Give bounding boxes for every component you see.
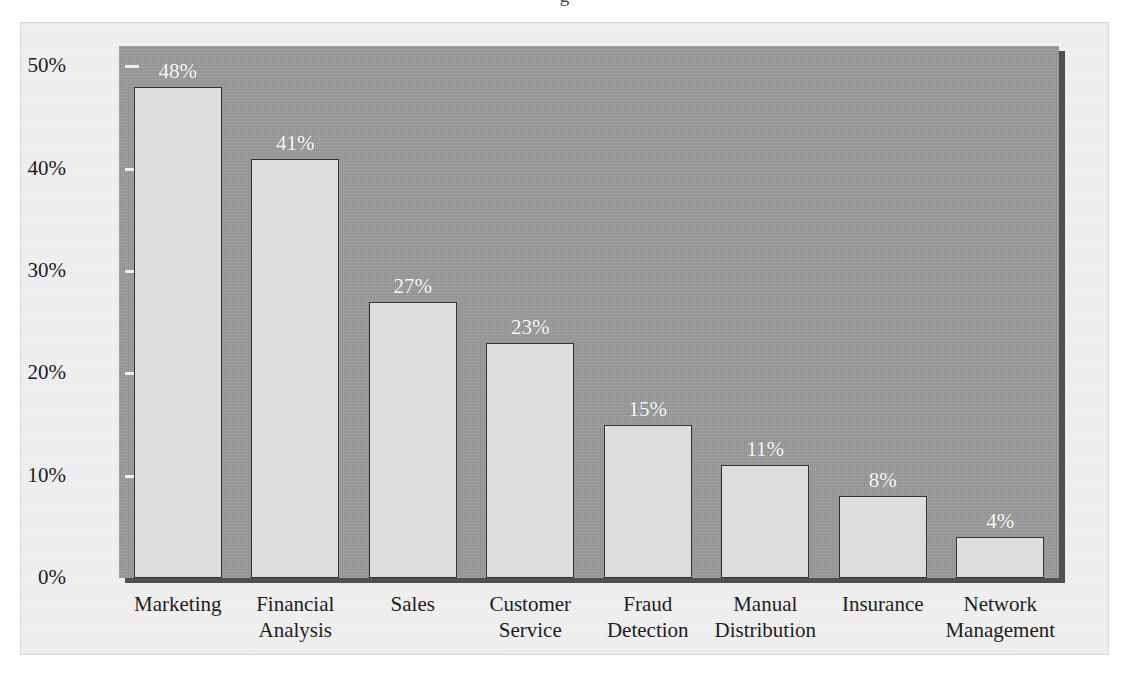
category-line-1: Network bbox=[964, 592, 1037, 616]
bar[interactable] bbox=[251, 159, 339, 578]
bar-slot: 23% bbox=[486, 46, 574, 578]
plot-area: 48%41%27%23%15%11%8%4% bbox=[119, 46, 1059, 578]
y-axis-tick-label: 40% bbox=[0, 158, 66, 179]
y-axis-tick-label: 30% bbox=[0, 260, 66, 281]
bar-value-label: 48% bbox=[134, 61, 222, 82]
bar[interactable] bbox=[134, 87, 222, 578]
bar[interactable] bbox=[839, 496, 927, 578]
bar-value-label: 4% bbox=[956, 511, 1044, 532]
category-line-1: Insurance bbox=[842, 592, 924, 616]
category-line-2: Analysis bbox=[231, 617, 361, 643]
chart-page: g 50%40%30%20%10%0% 48%41%27%23%15%11%8%… bbox=[0, 0, 1129, 676]
bar[interactable] bbox=[369, 302, 457, 578]
bar-value-label: 8% bbox=[839, 470, 927, 491]
x-axis-category-label: NetworkManagement bbox=[936, 591, 1066, 643]
category-line-1: Marketing bbox=[134, 592, 221, 616]
y-axis-tick-label: 50% bbox=[0, 55, 66, 76]
bar[interactable] bbox=[604, 425, 692, 578]
bar-slot: 48% bbox=[134, 46, 222, 578]
bar-value-label: 41% bbox=[251, 133, 339, 154]
bar[interactable] bbox=[721, 465, 809, 578]
bar-value-label: 15% bbox=[604, 399, 692, 420]
x-axis-category-label: ManualDistribution bbox=[701, 591, 831, 643]
category-line-1: Financial bbox=[256, 592, 334, 616]
bar-value-label: 23% bbox=[486, 317, 574, 338]
category-line-2: Detection bbox=[583, 617, 713, 643]
x-axis-category-label: Marketing bbox=[113, 591, 243, 617]
bar-slot: 15% bbox=[604, 46, 692, 578]
bar-slot: 4% bbox=[956, 46, 1044, 578]
cropped-title-remnant: g bbox=[0, 0, 1129, 12]
category-line-1: Customer bbox=[489, 592, 571, 616]
x-axis-category-label: FinancialAnalysis bbox=[231, 591, 361, 643]
cropped-title-text: g bbox=[560, 0, 570, 6]
category-line-1: Sales bbox=[391, 592, 435, 616]
bar-value-label: 11% bbox=[721, 439, 809, 460]
bar-slot: 27% bbox=[369, 46, 457, 578]
category-line-1: Manual bbox=[733, 592, 797, 616]
bar-slot: 8% bbox=[839, 46, 927, 578]
bar[interactable] bbox=[956, 537, 1044, 578]
category-line-2: Distribution bbox=[701, 617, 831, 643]
y-axis-tick-label: 10% bbox=[0, 465, 66, 486]
figure-frame: 50%40%30%20%10%0% 48%41%27%23%15%11%8%4%… bbox=[20, 22, 1109, 655]
x-axis-category-label: Insurance bbox=[818, 591, 948, 617]
y-axis-tick-label: 0% bbox=[0, 567, 66, 588]
y-axis-tick-label: 20% bbox=[0, 362, 66, 383]
category-line-1: Fraud bbox=[623, 592, 672, 616]
bar-slot: 41% bbox=[251, 46, 339, 578]
category-line-2: Management bbox=[936, 617, 1066, 643]
bar-slot: 11% bbox=[721, 46, 809, 578]
x-axis-category-label: Sales bbox=[348, 591, 478, 617]
x-axis-category-label: CustomerService bbox=[466, 591, 596, 643]
category-line-2: Service bbox=[466, 617, 596, 643]
bar-value-label: 27% bbox=[369, 276, 457, 297]
bar[interactable] bbox=[486, 343, 574, 578]
x-axis-category-label: FraudDetection bbox=[583, 591, 713, 643]
